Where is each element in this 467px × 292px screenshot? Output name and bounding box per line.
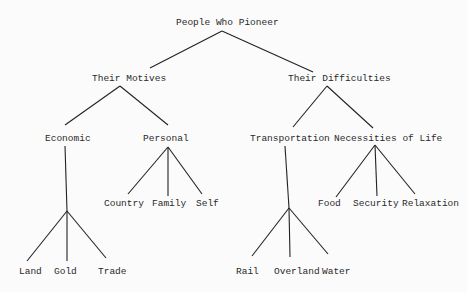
node-food: Food [318,198,341,209]
node-overland: Overland [274,266,320,277]
node-necessities-of-life: Necessities of Life [334,133,442,144]
node-their-difficulties: Their Difficulties [288,73,391,84]
node-self: Self [196,198,219,209]
node-security: Security [353,198,399,209]
tree-connector-lines [0,0,467,292]
node-water: Water [322,266,351,277]
node-root: People Who Pioneer [176,17,279,28]
node-relaxation: Relaxation [402,198,459,209]
node-gold: Gold [54,266,77,277]
node-personal: Personal [143,133,189,144]
node-trade: Trade [98,266,127,277]
node-their-motives: Their Motives [92,73,166,84]
node-rail: Rail [236,266,259,277]
concept-tree-diagram: People Who Pioneer Their Motives Their D… [0,0,467,292]
node-economic: Economic [45,133,91,144]
node-country: Country [104,198,144,209]
node-land: Land [19,266,42,277]
node-family: Family [152,198,186,209]
node-transportation: Transportation [250,133,330,144]
